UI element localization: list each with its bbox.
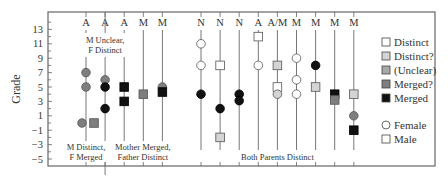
legend-label: Merged (394, 92, 429, 104)
male-point-merged (120, 83, 129, 92)
legend-label: Distinct (394, 36, 429, 48)
annotation-m-unclear-f-distinct: F Distinct (88, 45, 122, 55)
column-label: N (197, 17, 205, 28)
grade-scatter-chart: 131197531−1−3−5GradeAAAMMNNNAA/MMMMMM Un… (0, 0, 448, 178)
female-point-distinct (292, 76, 301, 85)
y-tick-label: 9 (38, 53, 43, 64)
female-point-merged (350, 112, 359, 121)
column-label: M (311, 17, 321, 28)
male-point-distinct (350, 90, 359, 99)
female-point-merged (197, 90, 206, 99)
y-axis-label: Grade (9, 74, 23, 103)
legend-swatch-merged (382, 80, 390, 88)
male-point-distinct (254, 32, 263, 41)
female-point-merged (311, 61, 320, 70)
male-point-merged (330, 96, 339, 105)
column-label: A (255, 17, 263, 28)
y-tick-label: 7 (38, 67, 43, 78)
male-point-merged (158, 88, 167, 97)
column-label: M (292, 17, 302, 28)
legend-label: Distinct? (394, 50, 434, 62)
male-point-merged (120, 97, 129, 106)
column-label: M (349, 17, 359, 28)
group-annotation: Both Parents Distinct (241, 152, 314, 162)
y-tick-label: 5 (38, 82, 43, 93)
y-tick-label: 3 (38, 96, 43, 107)
male-point-distinct (273, 61, 282, 70)
y-tick-label: −3 (32, 139, 43, 150)
legend-label: Merged? (394, 78, 433, 90)
column-label: M (139, 17, 149, 28)
female-point-merged (101, 104, 110, 113)
annotation-m-unclear-f-distinct: M Unclear, (86, 35, 124, 45)
group-annotation: F Merged (69, 152, 103, 162)
female-point-distinct (292, 54, 301, 63)
male-point-distinct (216, 61, 225, 70)
column-label: A/M (267, 17, 288, 28)
female-point-merged (216, 104, 225, 113)
female-point-distinct (197, 40, 206, 49)
legend-swatch-merged (382, 94, 390, 102)
female-point-merged (82, 68, 91, 77)
legend-label: Female (394, 119, 426, 131)
group-annotation: Father Distinct (117, 152, 168, 162)
male-point-distinct (311, 83, 320, 92)
column-label: A (82, 17, 90, 28)
column-label: M (330, 17, 340, 28)
group-annotation: M Distinct, (67, 142, 106, 152)
group-annotation: Mother Merged, (115, 142, 171, 152)
male-point-merged (350, 126, 359, 135)
female-point-distinct (292, 90, 301, 99)
column-label: N (235, 17, 243, 28)
y-tick-label: 13 (33, 24, 44, 35)
y-tick-label: 1 (38, 110, 43, 121)
legend-swatch-unclear (382, 66, 390, 74)
male-point-distinct (216, 133, 225, 142)
female-point-distinct (254, 61, 263, 70)
legend-male-icon (382, 135, 390, 143)
legend-swatch-distinct (382, 52, 390, 60)
female-point-merged (82, 83, 91, 92)
female-point-distinct (197, 61, 206, 70)
female-point-merged (101, 83, 110, 92)
chart-canvas: 131197531−1−3−5GradeAAAMMNNNAA/MMMMMM Un… (0, 0, 448, 178)
male-point-merged (90, 119, 99, 128)
legend-swatch-distinct (382, 38, 390, 46)
legend-female-icon (382, 121, 390, 129)
male-point-merged (139, 90, 148, 99)
legend-label: (Unclear) (394, 64, 436, 77)
column-label: N (216, 17, 224, 28)
column-label: M (158, 17, 168, 28)
y-tick-label: 11 (33, 38, 43, 49)
column-label: A (120, 17, 128, 28)
y-tick-label: −1 (32, 125, 43, 136)
female-point-merged (78, 119, 87, 128)
female-point-merged (235, 96, 244, 105)
female-point-distinct (273, 90, 282, 99)
legend-label: Male (394, 133, 417, 145)
y-tick-label: −5 (32, 154, 43, 165)
